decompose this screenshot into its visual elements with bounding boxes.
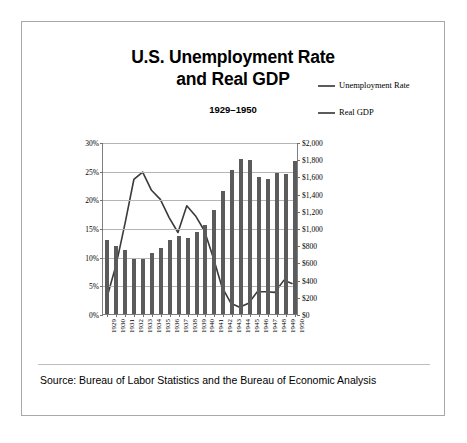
legend-label: Real GDP xyxy=(339,107,374,118)
bar xyxy=(221,191,225,314)
y-axis-label-right: $1,800 xyxy=(297,156,323,165)
x-axis-tick-mark xyxy=(277,314,278,317)
x-axis-tick-mark xyxy=(223,314,224,317)
y-axis-label-right: $1,000 xyxy=(297,225,323,234)
x-axis-tick-mark xyxy=(250,314,251,317)
bar xyxy=(141,259,145,314)
bar xyxy=(105,240,109,314)
x-axis-tick-mark xyxy=(205,314,206,317)
x-axis-tick-mark xyxy=(170,314,171,317)
legend-swatch-icon xyxy=(318,112,335,114)
x-axis-label: 1931 xyxy=(128,319,136,333)
x-axis-label: 1933 xyxy=(146,319,154,333)
y-axis-label-right: $1,200 xyxy=(297,207,323,216)
x-axis-label: 1937 xyxy=(182,319,190,333)
x-axis-label: 1935 xyxy=(164,319,172,333)
x-axis-label: 1940 xyxy=(208,319,216,333)
legend-item-real-gdp: Real GDP xyxy=(318,107,414,118)
y-axis-label-left: 25% xyxy=(85,167,103,176)
x-axis-label: 1941 xyxy=(217,319,225,333)
bar xyxy=(159,248,163,314)
title-line-1: U.S. Unemployment Rate xyxy=(131,47,335,67)
y-axis-label-left: 15% xyxy=(85,225,103,234)
y-axis-label-left: 30% xyxy=(85,139,103,148)
x-axis-label: 1946 xyxy=(262,319,270,333)
x-axis-label: 1942 xyxy=(226,319,234,333)
x-axis-label: 1949 xyxy=(289,319,297,333)
legend-item-unemployment-rate: Unemployment Rate xyxy=(318,80,414,91)
x-axis-tick-mark xyxy=(214,314,215,317)
bar xyxy=(186,238,190,314)
x-axis-tick-mark xyxy=(107,314,108,317)
x-axis-tick-mark xyxy=(152,314,153,317)
x-axis-label: 1934 xyxy=(155,319,163,333)
gridline xyxy=(103,143,297,144)
bar xyxy=(239,159,243,314)
x-axis-label: 1943 xyxy=(235,319,243,333)
x-axis-tick-mark xyxy=(134,314,135,317)
source-note: Source: Bureau of Labor Statistics and t… xyxy=(40,374,376,386)
x-axis-label: 1939 xyxy=(200,319,208,333)
y-axis-label-left: 10% xyxy=(85,253,103,262)
x-axis-label: 1932 xyxy=(137,319,145,333)
bar xyxy=(114,246,118,314)
x-axis-label: 1950 xyxy=(298,319,306,333)
bar xyxy=(177,236,181,314)
title-line-2: and Real GDP xyxy=(176,69,289,89)
x-axis-tick-mark xyxy=(197,314,198,317)
y-axis-label-left: 20% xyxy=(85,196,103,205)
x-axis-tick-mark xyxy=(295,314,296,317)
bar xyxy=(248,160,252,314)
x-axis-tick-mark xyxy=(143,314,144,317)
x-axis-label: 1948 xyxy=(280,319,288,333)
bar xyxy=(275,173,279,314)
chart-area: 0%5%10%15%20%25%30%$0$200$400$600$800$1,… xyxy=(58,134,448,334)
x-axis-label: 1929 xyxy=(110,319,118,333)
bar xyxy=(195,232,199,314)
x-axis-tick-mark xyxy=(259,314,260,317)
plot-area: 0%5%10%15%20%25%30%$0$200$400$600$800$1,… xyxy=(102,143,298,315)
x-axis-label: 1930 xyxy=(119,319,127,333)
x-axis-tick-mark xyxy=(179,314,180,317)
bar xyxy=(257,177,261,314)
y-axis-label-right: $1,600 xyxy=(297,173,323,182)
y-axis-label-right: $200 xyxy=(297,293,317,302)
footer-divider xyxy=(38,364,430,365)
bar xyxy=(266,179,270,314)
x-axis-label: 1945 xyxy=(253,319,261,333)
bar xyxy=(123,250,127,314)
y-axis-label-right: $1,400 xyxy=(297,190,323,199)
x-axis-tick-mark xyxy=(161,314,162,317)
gridline xyxy=(103,172,297,173)
x-axis-label: 1947 xyxy=(271,319,279,333)
x-axis-label: 1944 xyxy=(244,319,252,333)
x-axis-tick-mark xyxy=(125,314,126,317)
x-axis-tick-mark xyxy=(286,314,287,317)
x-axis-tick-mark xyxy=(188,314,189,317)
legend-swatch-icon xyxy=(318,85,335,87)
y-axis-label-left: 0% xyxy=(89,311,103,320)
bar xyxy=(212,210,216,314)
x-axis-label: 1936 xyxy=(173,319,181,333)
y-axis-label-left: 5% xyxy=(89,282,103,291)
x-axis-tick-mark xyxy=(241,314,242,317)
bar xyxy=(230,170,234,314)
y-axis-label-right: $600 xyxy=(297,259,317,268)
y-axis-label-right: $800 xyxy=(297,242,317,251)
x-axis-tick-mark xyxy=(116,314,117,317)
bar xyxy=(203,225,207,314)
chart-legend: Unemployment Rate Real GDP xyxy=(318,80,414,133)
bar xyxy=(168,240,172,314)
y-axis-label-right: $400 xyxy=(297,276,317,285)
figure-frame: U.S. Unemployment Rate and Real GDP 1929… xyxy=(21,21,445,416)
x-axis-tick-mark xyxy=(232,314,233,317)
figure-page: U.S. Unemployment Rate and Real GDP 1929… xyxy=(0,0,467,443)
bar xyxy=(293,161,297,314)
x-axis-label: 1938 xyxy=(191,319,199,333)
legend-label: Unemployment Rate xyxy=(339,80,410,91)
bar xyxy=(284,174,288,314)
x-axis-tick-mark xyxy=(268,314,269,317)
bar xyxy=(150,253,154,314)
y-axis-label-right: $2,000 xyxy=(297,139,323,148)
bar xyxy=(132,259,136,314)
